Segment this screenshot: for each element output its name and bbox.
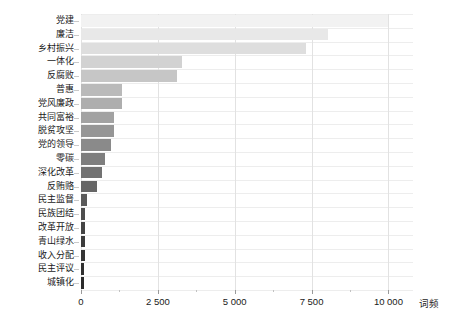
category-label: 民主监督 [0, 193, 74, 207]
bar [81, 167, 102, 179]
category-tick [74, 214, 79, 215]
category-tick [74, 21, 79, 22]
bar [81, 208, 85, 220]
category-tick [74, 104, 79, 105]
bar-series [81, 14, 413, 290]
category-tick [74, 187, 79, 188]
category-tick [74, 256, 79, 257]
x-axis-tick [312, 290, 313, 294]
x-axis-title: 词频 [419, 296, 439, 310]
category-tick [74, 62, 79, 63]
category-tick [74, 269, 79, 270]
category-label: 廉洁 [0, 28, 74, 42]
category-label: 收入分配 [0, 249, 74, 263]
category-label: 民族团结 [0, 207, 74, 221]
category-tick [74, 131, 79, 132]
bar [81, 56, 182, 68]
bar [81, 98, 122, 110]
word-frequency-bar-chart: 党建廉洁乡村振兴一体化反腐败普惠党风廉政共同富裕脱贫攻坚党的领导零碳深化改革反贿… [0, 0, 451, 326]
bar [81, 70, 177, 82]
x-axis-minor-tick [196, 290, 197, 292]
category-label: 党建 [0, 14, 74, 28]
x-axis-tick-label: 5 000 [223, 296, 247, 307]
x-axis-minor-tick [273, 290, 274, 292]
x-axis-minor-tick [350, 290, 351, 292]
bar [81, 250, 85, 262]
category-tick [74, 35, 79, 36]
value-axis: 02 5005 0007 50010 000 [81, 290, 413, 320]
category-label: 反贿赂 [0, 180, 74, 194]
x-axis-tick [388, 290, 389, 294]
x-axis-tick [158, 290, 159, 294]
category-label: 改革开放 [0, 221, 74, 235]
plot-area [81, 14, 413, 290]
bar [81, 263, 84, 275]
category-tick [74, 159, 79, 160]
category-label: 城镇化 [0, 276, 74, 290]
category-label: 青山绿水 [0, 235, 74, 249]
x-axis-tick-label: 7 500 [300, 296, 324, 307]
category-tick [74, 242, 79, 243]
bar [81, 194, 87, 206]
category-tick [74, 145, 79, 146]
bar [81, 84, 122, 96]
bar [81, 125, 114, 137]
category-label: 普惠 [0, 83, 74, 97]
bar [81, 277, 84, 289]
bar [81, 139, 111, 151]
category-tick [74, 118, 79, 119]
category-tick [74, 283, 79, 284]
x-axis-tick-label: 2 500 [146, 296, 170, 307]
category-tick [74, 200, 79, 201]
category-axis: 党建廉洁乡村振兴一体化反腐败普惠党风廉政共同富裕脱贫攻坚党的领导零碳深化改革反贿… [0, 14, 74, 290]
bar [81, 15, 388, 27]
x-axis-tick-label: 10 000 [374, 296, 403, 307]
bar [81, 112, 114, 124]
category-label: 民主评议 [0, 262, 74, 276]
bar [81, 153, 105, 165]
category-label: 党风廉政 [0, 97, 74, 111]
category-label: 党的领导 [0, 138, 74, 152]
category-label: 共同富裕 [0, 111, 74, 125]
bar [81, 222, 85, 234]
x-axis-tick-label: 0 [78, 296, 83, 307]
category-tick [74, 76, 79, 77]
x-axis-minor-tick [119, 290, 120, 292]
category-label: 乡村振兴 [0, 42, 74, 56]
x-axis-tick [235, 290, 236, 294]
category-label: 反腐败 [0, 69, 74, 83]
category-label: 一体化 [0, 55, 74, 69]
bar [81, 43, 306, 55]
bar [81, 29, 328, 41]
bar [81, 236, 85, 248]
bar [81, 181, 97, 193]
category-label: 脱贫攻坚 [0, 124, 74, 138]
category-label: 深化改革 [0, 166, 74, 180]
category-label: 零碳 [0, 152, 74, 166]
category-tick [74, 90, 79, 91]
x-axis-tick [81, 290, 82, 294]
category-tick [74, 228, 79, 229]
category-tick [74, 49, 79, 50]
category-tick [74, 173, 79, 174]
